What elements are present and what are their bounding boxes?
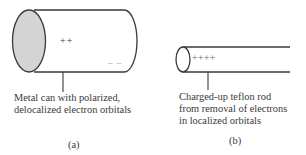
teflon-rod-end-face [176, 47, 190, 72]
negative-charge-label-a: – – [108, 57, 122, 67]
caption-a: Metal can with polarized, delocalized el… [14, 92, 131, 116]
caption-b-line-1: Charged-up teflon rod [179, 91, 287, 103]
positive-charge-label-a: ++ [60, 35, 73, 46]
diagram-drawing [0, 0, 306, 155]
positive-charge-label-b: ++++ [192, 53, 216, 63]
caption-b: Charged-up teflon rod from removal of el… [179, 91, 287, 128]
panel-label-b: (b) [229, 135, 241, 146]
caption-a-line-1: Metal can with polarized, [14, 92, 131, 104]
caption-b-line-3: in localized orbitals [179, 115, 287, 127]
figure: ++ – – Metal can with polarized, delocal… [0, 0, 306, 155]
metal-can-end-face [13, 10, 46, 72]
caption-b-line-2: from removal of electrons [179, 103, 287, 115]
panel-label-a: (a) [68, 139, 80, 150]
caption-a-line-2: delocalized electron orbitals [14, 104, 131, 116]
